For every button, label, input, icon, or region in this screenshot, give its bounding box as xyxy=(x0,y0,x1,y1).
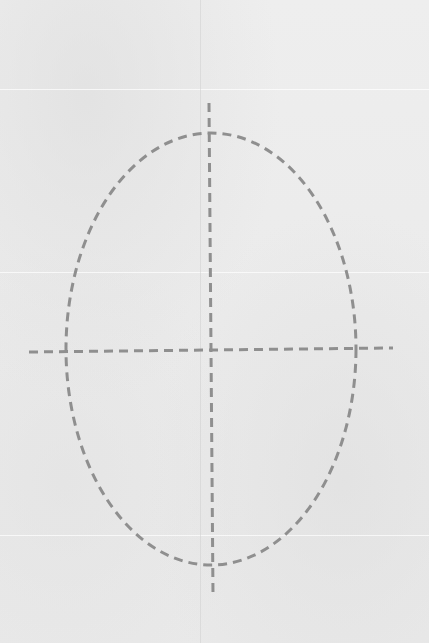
ellipse-crosshair-drawing xyxy=(0,0,429,643)
vertical-dashed-axis xyxy=(209,103,213,595)
scanned-paper xyxy=(0,0,429,643)
